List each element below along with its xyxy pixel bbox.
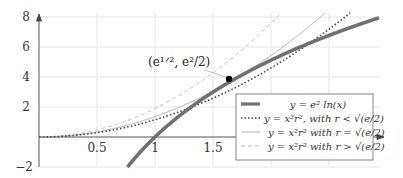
y-tick-labels: 8 6 4 2 −2 xyxy=(15,10,33,174)
legend-entry-log: y = e² ln(x) xyxy=(289,99,347,110)
svg-text:4: 4 xyxy=(22,70,30,84)
legend-entry-r-greater: y = x²r² with r > √(e/2) xyxy=(267,141,385,152)
tangent-point-marker xyxy=(226,76,232,82)
svg-text:0.5: 0.5 xyxy=(87,141,106,155)
svg-text:1.5: 1.5 xyxy=(203,141,222,155)
svg-text:8: 8 xyxy=(22,10,30,24)
point-label: (e¹ᐟ², e²/2) xyxy=(148,55,210,69)
x-tick-labels: 0.5 1 1.5 xyxy=(87,141,222,155)
legend-entry-r-equal: y = x²r² with r = √(e/2) xyxy=(267,127,385,138)
legend: y = e² ln(x) y = x²r², with r < √(e/2) y… xyxy=(236,94,385,160)
chart: 8 6 4 2 −2 0.5 1 1.5 (e¹ᐟ², e²/2) y = e²… xyxy=(0,0,403,178)
svg-text:1: 1 xyxy=(151,141,159,155)
svg-text:2: 2 xyxy=(22,100,30,114)
svg-text:6: 6 xyxy=(22,40,30,54)
svg-text:−2: −2 xyxy=(15,160,33,174)
legend-entry-r-less: y = x²r², with r < √(e/2) xyxy=(263,113,384,124)
